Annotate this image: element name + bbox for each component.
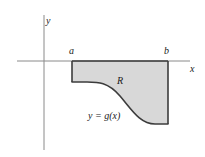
x-axis-label: x <box>190 64 194 74</box>
y-axis-label: y <box>46 16 50 26</box>
lower-limit-label-a: a <box>69 46 74 56</box>
region-label-r: R <box>117 76 123 86</box>
figure-container: y x a b R y = g(x) <box>0 0 205 157</box>
upper-limit-label-b: b <box>164 46 169 56</box>
function-label: y = g(x) <box>88 111 120 121</box>
calculus-region-figure <box>0 0 205 157</box>
